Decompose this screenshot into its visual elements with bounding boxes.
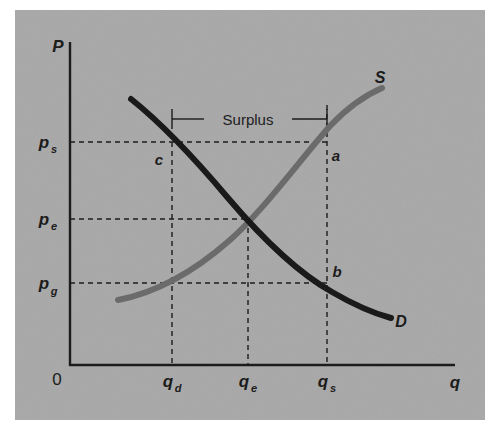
plate-texture [15, 10, 485, 420]
x-axis-label: q [450, 373, 461, 392]
x-tick-qd-subscript: d [175, 382, 182, 394]
y-tick-ps-subscript: s [51, 143, 57, 155]
x-tick-qe-subscript: e [251, 382, 257, 394]
y-tick-pg-subscript: g [50, 285, 58, 297]
origin-label: 0 [52, 370, 61, 389]
y-tick-ps-base: p [38, 133, 49, 152]
supply-demand-chart: Surplus P q 0 p s p e p g q d [0, 0, 499, 434]
demand-curve-label: D [395, 313, 407, 330]
y-tick-pg-base: p [38, 274, 49, 293]
x-tick-qe-base: q [239, 372, 250, 391]
x-tick-qd-base: q [163, 372, 174, 391]
x-tick-qs-base: q [318, 372, 329, 391]
figure-root: Supply and demand with a price floor pro… [0, 0, 499, 434]
y-tick-pe-subscript: e [51, 220, 57, 232]
surplus-label: Surplus [223, 111, 274, 128]
supply-curve-label: S [375, 69, 386, 86]
point-b-label: b [332, 263, 341, 280]
y-tick-pe-base: p [38, 210, 49, 229]
point-a-label: a [332, 147, 340, 164]
x-tick-qs-subscript: s [330, 382, 336, 394]
y-axis-label: P [52, 37, 64, 56]
point-c-label: c [155, 151, 164, 168]
